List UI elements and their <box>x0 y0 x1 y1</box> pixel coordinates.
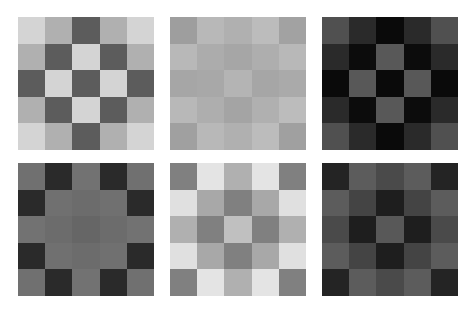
grid-cell <box>127 190 154 217</box>
grid-cell <box>349 97 376 124</box>
grid-cell <box>45 269 72 296</box>
grid-cell <box>322 163 349 190</box>
grid-cell <box>224 216 251 243</box>
grid-cell <box>45 17 72 44</box>
grid-cell <box>45 243 72 270</box>
grid-cell <box>252 243 279 270</box>
grid-cell <box>376 123 403 150</box>
grid-cell <box>224 70 251 97</box>
grid-cell <box>127 70 154 97</box>
grid-cell <box>72 269 99 296</box>
grid-cell <box>279 44 306 71</box>
grid-cell <box>404 190 431 217</box>
grid-cell <box>127 97 154 124</box>
grid-cell <box>431 190 458 217</box>
grid-cell <box>100 269 127 296</box>
grid-cell <box>279 269 306 296</box>
grid-cell <box>322 190 349 217</box>
grid-cell <box>170 163 197 190</box>
grid-cell <box>197 123 224 150</box>
grid-cell <box>279 216 306 243</box>
grid-cell <box>170 44 197 71</box>
grid-cell <box>252 269 279 296</box>
grid-cell <box>279 70 306 97</box>
grid-cell <box>197 269 224 296</box>
grid-cell <box>197 243 224 270</box>
grid-cell <box>252 216 279 243</box>
grid-cell <box>404 70 431 97</box>
grid-cell <box>322 17 349 44</box>
grid-cell <box>252 17 279 44</box>
grid-cell <box>45 44 72 71</box>
grid-cell <box>349 44 376 71</box>
grid-cell <box>322 44 349 71</box>
grid-cell <box>376 70 403 97</box>
grid-cell <box>72 190 99 217</box>
grid-cell <box>376 97 403 124</box>
grid-cell <box>197 17 224 44</box>
grid-cell <box>127 216 154 243</box>
pattern-panel-6 <box>322 163 458 296</box>
grid-cell <box>197 97 224 124</box>
grid-cell <box>404 163 431 190</box>
grid-cell <box>100 17 127 44</box>
grid-cell <box>127 123 154 150</box>
grid-cell <box>404 269 431 296</box>
grid-cell <box>376 243 403 270</box>
grid-cell <box>18 269 45 296</box>
grid-cell <box>127 44 154 71</box>
grid-cell <box>100 97 127 124</box>
grid-cell <box>197 70 224 97</box>
grid-cell <box>224 17 251 44</box>
grid-cell <box>72 44 99 71</box>
grid-cell <box>279 243 306 270</box>
grid-cell <box>100 44 127 71</box>
grid-cell <box>18 70 45 97</box>
grid-cell <box>376 44 403 71</box>
grid-cell <box>252 97 279 124</box>
grid-cell <box>127 163 154 190</box>
grid-cell <box>100 243 127 270</box>
grid-cell <box>431 70 458 97</box>
grid-cell <box>170 70 197 97</box>
pattern-panel-3 <box>322 17 458 150</box>
grid-cell <box>100 190 127 217</box>
grid-cell <box>279 190 306 217</box>
grid-cell <box>18 190 45 217</box>
grid-cell <box>252 44 279 71</box>
grid-cell <box>72 17 99 44</box>
grid-cell <box>197 216 224 243</box>
grid-cell <box>224 243 251 270</box>
grid-cell <box>322 70 349 97</box>
grid-cell <box>127 243 154 270</box>
grid-cell <box>349 243 376 270</box>
grid-cell <box>279 97 306 124</box>
grid-cell <box>404 216 431 243</box>
grid-cell <box>127 17 154 44</box>
grid-cell <box>18 216 45 243</box>
grid-cell <box>18 44 45 71</box>
grid-cell <box>18 163 45 190</box>
grid-cell <box>45 97 72 124</box>
grid-cell <box>431 17 458 44</box>
grid-cell <box>45 70 72 97</box>
grid-cell <box>170 216 197 243</box>
grid-cell <box>431 243 458 270</box>
grid-cell <box>72 163 99 190</box>
grid-cell <box>18 97 45 124</box>
grid-cell <box>349 70 376 97</box>
grid-cell <box>349 17 376 44</box>
grid-cell <box>431 269 458 296</box>
grid-cell <box>45 190 72 217</box>
grid-cell <box>322 269 349 296</box>
grid-cell <box>252 70 279 97</box>
grid-cell <box>431 123 458 150</box>
grid-cell <box>197 163 224 190</box>
grid-cell <box>72 97 99 124</box>
grid-cell <box>279 17 306 44</box>
grid-cell <box>18 123 45 150</box>
grid-cell <box>45 123 72 150</box>
grid-cell <box>376 216 403 243</box>
grid-cell <box>431 163 458 190</box>
grid-cell <box>349 190 376 217</box>
